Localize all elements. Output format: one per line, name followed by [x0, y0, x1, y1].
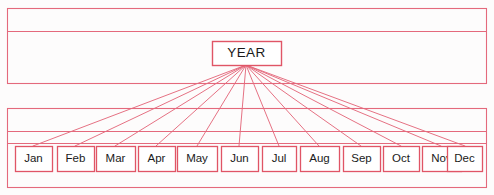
- month-node-label-aug: Aug: [309, 152, 329, 164]
- month-node-label-feb: Feb: [66, 152, 86, 164]
- connector-lines-group: [33, 65, 465, 146]
- connector-line-mar: [115, 65, 246, 146]
- root-node[interactable]: YEAR: [213, 42, 282, 66]
- month-node-label-dec: Dec: [454, 152, 475, 164]
- hierarchy-diagram-svg: YEAR JanFebMarAprMayJunJulAugSepOctNovDe…: [0, 0, 494, 195]
- month-node-label-jun: Jun: [230, 152, 249, 164]
- month-node-label-sep: Sep: [351, 152, 371, 164]
- month-node-label-may: May: [186, 152, 208, 164]
- month-node-label-jul: Jul: [272, 152, 287, 164]
- root-node-label: YEAR: [227, 45, 265, 60]
- month-node-label-apr: Apr: [148, 152, 166, 164]
- connector-line-apr: [156, 65, 246, 146]
- connector-line-may: [197, 65, 246, 146]
- connector-line-dec: [246, 65, 465, 146]
- connector-line-oct: [246, 65, 401, 146]
- connector-line-jun: [239, 65, 246, 146]
- month-node-label-oct: Oct: [392, 152, 411, 164]
- connector-line-aug: [246, 65, 319, 146]
- month-node-label-mar: Mar: [106, 152, 126, 164]
- month-nodes-group: JanFebMarAprMayJunJulAugSepOctNovDec: [16, 147, 483, 172]
- month-node-label-jan: Jan: [24, 152, 43, 164]
- connector-line-feb: [75, 65, 246, 146]
- connector-line-jan: [33, 65, 246, 146]
- diagram-canvas: YEAR JanFebMarAprMayJunJulAugSepOctNovDe…: [0, 0, 494, 195]
